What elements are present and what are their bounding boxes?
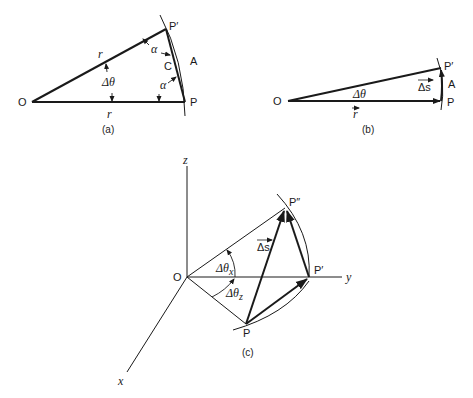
vector-ds-c: [246, 211, 284, 324]
label-p-c: P: [243, 327, 250, 339]
caption-c: (c): [242, 347, 254, 358]
caption-a: (a): [102, 124, 114, 135]
label-vector-ds-c: Δs: [257, 241, 270, 253]
label-p-prime-a: P′: [169, 20, 178, 32]
label-origin-b: O: [273, 95, 282, 107]
label-vector-ds-b: Δs: [418, 81, 431, 93]
alpha-arrow-bottom-1: [168, 77, 176, 83]
label-angle-x: Δθx: [215, 261, 234, 277]
label-arc-a: A: [190, 55, 198, 67]
label-p-double-prime-c: P″: [289, 196, 300, 208]
label-p-a: P: [190, 96, 197, 108]
label-origin-c: O: [173, 271, 182, 283]
label-axis-y: y: [345, 270, 352, 284]
label-alpha-bottom-a: α: [160, 78, 167, 92]
angle-arrow-upper-a: [106, 64, 107, 72]
label-angle-b: Δθ: [352, 87, 366, 101]
panel-b: O P P′ A Δθ r Δs (b): [273, 58, 456, 135]
label-angle-a: Δθ: [101, 75, 115, 89]
panel-c: O z y x P P′ P″ Δs Δθx Δθz (c): [117, 153, 352, 388]
label-p-b: P: [447, 96, 454, 108]
label-p-prime-c: P′: [314, 264, 323, 276]
axis-x: [127, 277, 187, 372]
panel-a: O P P′ A C r r Δθ α α (a): [18, 15, 198, 135]
label-radius-upper-a: r: [98, 47, 103, 61]
radius-upper-a: [32, 29, 166, 102]
figure-canvas: O P P′ A C r r Δθ α α (a) O P P′ A Δθ r …: [0, 0, 473, 398]
label-alpha-top-a: α: [151, 42, 158, 56]
label-axis-z: z: [182, 153, 188, 167]
radius-to-p-double-prime: [187, 208, 285, 277]
label-angle-z: Δθz: [225, 286, 243, 302]
vector-ds-b: [441, 70, 442, 101]
label-p-prime-b: P′: [444, 60, 453, 72]
label-vector-r-b: r: [353, 107, 358, 121]
label-chord-a: C: [164, 60, 172, 72]
alpha-arrow-top-2: [161, 53, 170, 55]
label-origin-a: O: [18, 96, 27, 108]
vector-p-to-p-prime: [246, 279, 307, 324]
label-arc-b: A: [448, 78, 456, 90]
radius-to-p: [187, 277, 246, 324]
caption-b: (b): [362, 124, 374, 135]
label-axis-x: x: [117, 374, 124, 388]
label-radius-lower-a: r: [107, 107, 112, 121]
